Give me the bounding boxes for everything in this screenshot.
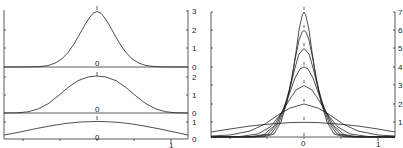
bottom-tick-label-1: 1: [192, 118, 197, 127]
peak-6-curve: [211, 31, 395, 138]
middle-center-label: 0: [95, 105, 100, 114]
bottom-center-label: 0: [95, 133, 100, 142]
right-x-label-0: 0: [301, 139, 306, 148]
right-y-label-3: 3: [398, 81, 403, 90]
right-panel: 7 6 5 4 3 2 1 0 1: [211, 7, 403, 148]
right-y-label-5: 5: [398, 44, 403, 53]
right-y-label-7: 7: [398, 8, 403, 17]
middle-tick-label-0: 0: [192, 109, 197, 118]
peak-5-curve: [211, 49, 395, 138]
right-panel-y-ticks: [211, 12, 395, 122]
peak-2-curve: [211, 104, 395, 136]
middle-tick-label-1: 1: [192, 91, 197, 100]
top-tick-label-1: 1: [192, 44, 197, 53]
top-tick-label-0: 0: [192, 63, 197, 72]
right-y-label-2: 2: [398, 100, 403, 109]
right-y-label-1: 1: [398, 118, 403, 127]
x-tick-label-1: 1: [169, 141, 174, 148]
top-center-label: 0: [95, 59, 100, 68]
right-x-label-1: 1: [376, 140, 381, 148]
figure: 3 2 1 0 2 1 0 1 0 0 0 0 1: [0, 0, 403, 148]
left-panel: 3 2 1 0 2 1 0 1 0 0 0 0 1: [4, 6, 197, 148]
peak-1-curve: [211, 122, 395, 132]
middle-tick-label-2: 2: [192, 73, 197, 82]
bottom-tick-label-0: 0: [192, 135, 197, 144]
right-y-label-6: 6: [398, 26, 403, 35]
top-tick-label-3: 3: [192, 7, 197, 16]
peak-3-curve: [211, 86, 395, 138]
right-y-label-4: 4: [398, 63, 403, 72]
peak-4-curve: [211, 67, 395, 137]
top-tick-label-2: 2: [192, 26, 197, 35]
